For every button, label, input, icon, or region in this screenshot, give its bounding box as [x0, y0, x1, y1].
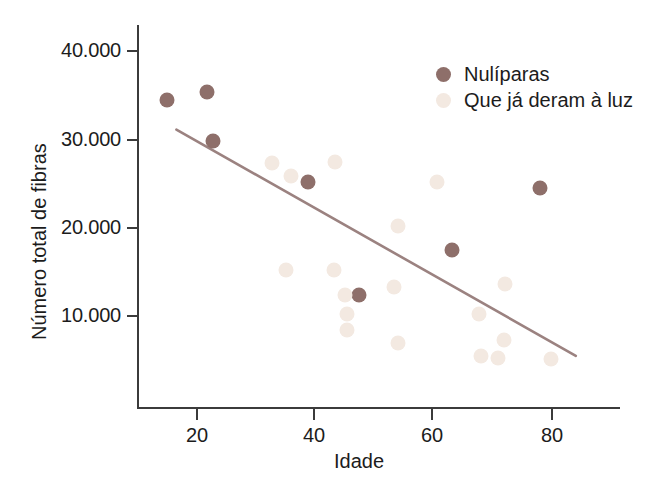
legend-item-que-ja-deram-a-luz[interactable]: Que já deram à luz: [436, 87, 633, 113]
legend: Nulíparas Que já deram à luz: [436, 61, 633, 113]
legend-item-nuliparas[interactable]: Nulíparas: [436, 61, 633, 87]
legend-label-que-ja-deram-a-luz: Que já deram à luz: [464, 89, 633, 112]
scatter-plot-figure: 40.000 30.000 20.000 10.000 20 40 60 80 …: [0, 0, 657, 479]
legend-marker-nuliparas-icon: [436, 67, 451, 82]
legend-label-nuliparas: Nulíparas: [464, 63, 550, 86]
legend-marker-que-ja-deram-a-luz-icon: [436, 93, 451, 108]
